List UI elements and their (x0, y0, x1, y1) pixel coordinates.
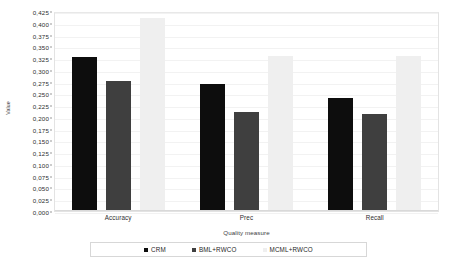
bar[interactable] (106, 81, 131, 211)
legend-item[interactable]: MCML+RWCO (263, 246, 313, 253)
y-axis-tick-mark (50, 47, 52, 48)
y-axis-tick-mark (50, 94, 52, 95)
y-axis-tick-mark (50, 176, 52, 177)
chart-legend: CRMBML+RWCOMCML+RWCO (90, 242, 367, 257)
y-axis-tick-label: 0,175 (33, 126, 49, 133)
y-axis-tick-label: 0,125 (33, 150, 49, 157)
legend-label: BML+RWCO (199, 246, 237, 253)
axis-baseline (55, 210, 438, 211)
y-axis-tick-mark (50, 82, 52, 83)
y-axis-title-label: Value (5, 101, 11, 114)
bar[interactable] (72, 57, 97, 211)
y-axis-title: Value (0, 0, 16, 215)
y-axis-tick-mark (50, 129, 52, 130)
bar[interactable] (200, 84, 225, 211)
bar[interactable] (268, 56, 293, 211)
y-axis-tick-mark (50, 200, 52, 201)
plot-area (54, 12, 439, 212)
y-axis-tick-label: 0,425 (33, 9, 49, 16)
y-axis-tick-mark (50, 141, 52, 142)
y-axis-tick-mark (50, 106, 52, 107)
y-axis-tick-label: 0,100 (33, 161, 49, 168)
y-axis-tick-label: 0,225 (33, 103, 49, 110)
x-axis-title: Quality measure (54, 229, 439, 236)
bar-group (55, 13, 183, 211)
y-axis-tick-label: 0,050 (33, 185, 49, 192)
y-axis-tick-label: 0,400 (33, 20, 49, 27)
legend-swatch-icon (144, 248, 148, 252)
y-axis-tick-mark (50, 188, 52, 189)
bar[interactable] (328, 98, 353, 211)
y-axis-tick-mark (50, 153, 52, 154)
x-axis-tick-label: Accuracy (54, 214, 182, 228)
y-axis-tick-label: 0,000 (33, 209, 49, 216)
y-axis-tick-mark (50, 23, 52, 24)
x-axis-tick-labels: AccuracyPrecRecall (54, 214, 439, 228)
bar[interactable] (234, 112, 259, 211)
y-axis-tick-label: 0,375 (33, 32, 49, 39)
y-axis-tick-mark (50, 12, 52, 13)
bar[interactable] (362, 114, 387, 211)
legend-label: MCML+RWCO (270, 246, 313, 253)
y-axis-tick-label: 0,250 (33, 91, 49, 98)
bar[interactable] (140, 18, 165, 211)
y-axis-tick-label: 0,025 (33, 197, 49, 204)
legend-item[interactable]: BML+RWCO (192, 246, 237, 253)
y-axis-tick-label: 0,275 (33, 79, 49, 86)
y-axis-tick-mark (50, 70, 52, 71)
y-axis-tick-label: 0,300 (33, 67, 49, 74)
y-axis-tick-mark (50, 212, 52, 213)
y-axis-tick-label: 0,200 (33, 114, 49, 121)
bar-group (183, 13, 311, 211)
y-axis-tick-mark (50, 164, 52, 165)
bar-groups (55, 13, 438, 211)
bar-chart: Value 0,0000,0250,0500,0750,1000,1250,15… (0, 0, 452, 269)
y-axis-tick-labels: 0,0000,0250,0500,0750,1000,1250,1500,175… (16, 12, 52, 212)
legend-swatch-icon (192, 248, 196, 252)
bar[interactable] (396, 56, 421, 211)
legend-item[interactable]: CRM (144, 246, 166, 253)
y-axis-tick-mark (50, 35, 52, 36)
y-axis-tick-label: 0,325 (33, 56, 49, 63)
legend-label: CRM (151, 246, 166, 253)
legend-swatch-icon (263, 248, 267, 252)
y-axis-tick-mark (50, 117, 52, 118)
y-axis-tick-label: 0,150 (33, 138, 49, 145)
x-axis-tick-label: Recall (311, 214, 439, 228)
bar-group (310, 13, 438, 211)
y-axis-tick-mark (50, 59, 52, 60)
x-axis-tick-label: Prec (182, 214, 310, 228)
y-axis-tick-label: 0,350 (33, 44, 49, 51)
y-axis-tick-label: 0,075 (33, 173, 49, 180)
